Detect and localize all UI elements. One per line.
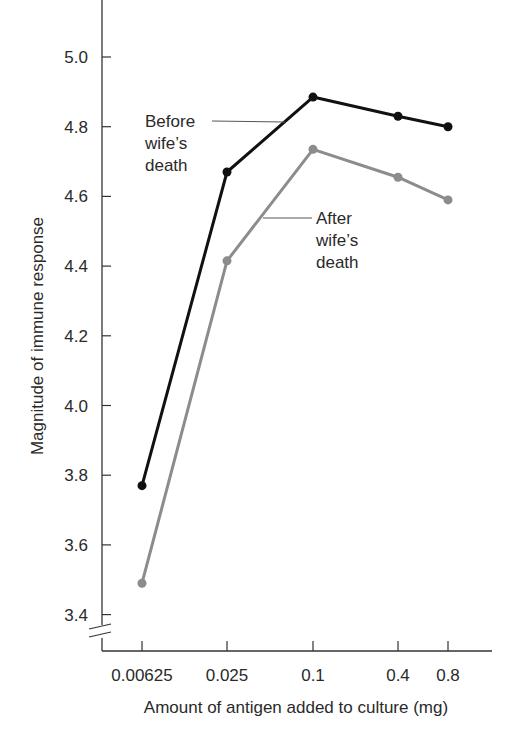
- data-point-marker: [223, 256, 232, 265]
- y-tick-label: 4.2: [64, 327, 88, 346]
- series-line-after: [142, 149, 448, 583]
- y-axis: 5.04.84.64.44.24.03.83.63.4: [64, 0, 111, 651]
- line-chart: 5.04.84.64.44.24.03.83.63.4 0.006250.025…: [0, 0, 516, 740]
- axis-break-mark: [89, 624, 111, 629]
- axis-break-mark: [89, 632, 111, 637]
- y-tick-label: 3.6: [64, 536, 88, 555]
- x-tick-label: 0.00625: [111, 666, 172, 685]
- y-tick-label: 3.8: [64, 466, 88, 485]
- x-tick-label: 0.4: [386, 666, 410, 685]
- annotation-before-text: wife’s: [144, 134, 187, 153]
- data-point-marker: [444, 122, 453, 131]
- annotation-before-text: death: [145, 156, 188, 175]
- y-tick-label: 5.0: [64, 48, 88, 67]
- series-line-before: [142, 97, 448, 486]
- x-tick-label: 0.1: [301, 666, 325, 685]
- y-tick-label: 3.4: [64, 606, 88, 625]
- data-point-marker: [394, 112, 403, 121]
- data-point-marker: [394, 173, 403, 182]
- data-point-marker: [309, 145, 318, 154]
- data-point-marker: [444, 195, 453, 204]
- x-axis-title: Amount of antigen added to culture (mg): [144, 698, 448, 717]
- data-point-marker: [138, 579, 147, 588]
- annotation-after-text: death: [316, 253, 359, 272]
- annotations: Beforewife’sdeathAfterwife’sdeath: [144, 112, 359, 272]
- x-tick-label: 0.025: [206, 666, 249, 685]
- annotation-leader-before: [212, 121, 285, 122]
- annotation-after-text: wife’s: [315, 231, 358, 250]
- x-axis: 0.006250.0250.10.40.8: [102, 641, 492, 685]
- x-tick-label: 0.8: [436, 666, 460, 685]
- y-axis-title: Magnitude of immune response: [28, 217, 47, 455]
- y-tick-label: 4.6: [64, 187, 88, 206]
- y-tick-label: 4.4: [64, 257, 88, 276]
- data-point-marker: [138, 481, 147, 490]
- data-point-marker: [223, 168, 232, 177]
- annotation-after-text: After: [316, 209, 352, 228]
- y-tick-label: 4.0: [64, 397, 88, 416]
- data-point-marker: [309, 93, 318, 102]
- annotation-before-text: Before: [145, 112, 195, 131]
- y-tick-label: 4.8: [64, 118, 88, 137]
